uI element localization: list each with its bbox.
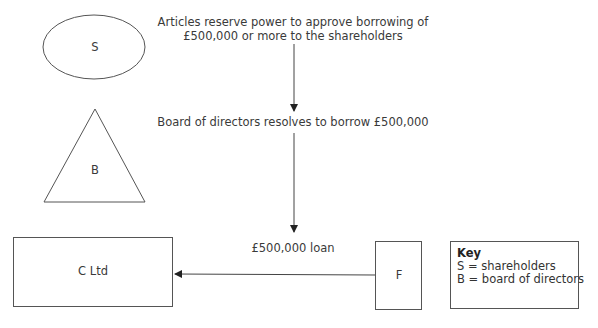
key-item-board: B = board of directors (457, 273, 572, 286)
board-triangle (44, 109, 145, 202)
shareholders-label: S (91, 40, 98, 54)
articles-text-line2: £500,000 or more to the shareholders (183, 29, 403, 43)
loan-arrow (175, 274, 375, 275)
articles-text-line1: Articles reserve power to approve borrow… (158, 15, 429, 29)
company-label: C Ltd (78, 264, 108, 278)
board-resolution-text: Board of directors resolves to borrow £5… (157, 115, 428, 129)
loan-text: £500,000 loan (251, 241, 334, 255)
financier-label: F (396, 268, 403, 282)
board-label: B (91, 163, 99, 177)
key-box: Key S = shareholders B = board of direct… (450, 241, 579, 309)
